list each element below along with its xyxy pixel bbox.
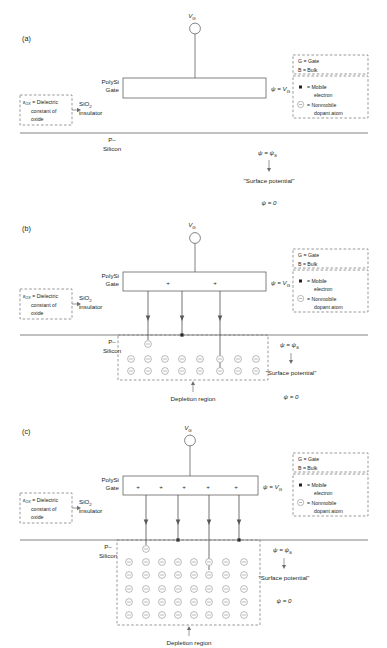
dielectric-constant-box-a: εOX = Dielectric constant of oxide [20, 95, 81, 125]
eps-ox-line3: oxide [31, 116, 44, 122]
legend-dopant-row1-b: = Nonmobile [307, 296, 336, 302]
insulator-label-c: insulator [79, 507, 102, 514]
panel-c-label: (c) [22, 427, 30, 436]
psi-eq-psis-b: ψ = ψS [280, 341, 299, 350]
sio2-label-c: SiO2 [79, 498, 92, 507]
insulator-label: insulator [79, 109, 102, 116]
panel-c: (c) VG PolySi Gate + + + + + ψ = VG SiO2… [20, 424, 368, 646]
legend-dopant-row2-c: dopant atom [314, 508, 343, 514]
terminal-circle-c [185, 435, 196, 446]
vg-label: VG [188, 12, 196, 21]
eps-ox-line2-c: constant of [31, 506, 57, 512]
gate-plus-c-1: + [136, 483, 140, 490]
panel-b: (b) VG PolySi Gate + + ψ = VG SiO2 insul… [20, 221, 368, 402]
psi-eq-psis-c: ψ = ψS [273, 546, 292, 555]
legend-gate-row: G = Gate [298, 58, 319, 64]
gate-label-c: Gate [106, 484, 120, 491]
legend-b: G = Gate B = Bulk = Mobile electron = No… [293, 249, 368, 312]
insulator-label-b: insulator [79, 303, 102, 310]
depletion-region-label-b: Depletion region [170, 395, 216, 402]
legend-a: G = Gate B = Bulk = Mobile electron = No… [293, 55, 368, 118]
psi-zero-a: ψ = 0 [262, 199, 278, 206]
vg-label-b: VG [188, 221, 196, 230]
psi-eq-vg-a: ψ = VG [271, 85, 291, 94]
surface-potential-arrow-a [267, 160, 271, 172]
eps-ox-line3-b: oxide [31, 310, 44, 316]
dopant-row-c-4 [126, 599, 248, 606]
panel-b-gate-terminal: VG [188, 221, 200, 272]
terminal-circle [190, 23, 201, 34]
legend-gate-row-b: G = Gate [298, 252, 319, 258]
surface-potential-c: "Surface potential" [259, 574, 310, 581]
gate-plus-c-5: + [234, 483, 238, 490]
legend-electron-icon-c [299, 484, 302, 487]
silicon-label-b: Silicon [103, 347, 122, 354]
dielectric-constant-box-c: εOX = Dielectric constant of oxide [20, 493, 81, 523]
dopant-row-c-5 [126, 612, 248, 619]
gate-label-b: Gate [106, 280, 120, 287]
legend-electron-icon [299, 86, 302, 89]
panel-a-label: (a) [22, 34, 31, 43]
panel-c-gate-terminal: VG [184, 424, 195, 476]
legend-gate-row-c: G = Gate [298, 456, 319, 462]
legend-dopant-row1-c: = Nonmobile [307, 500, 336, 506]
silicon-label-c: Silicon [99, 552, 118, 559]
panel-a-gate-terminal: VG [188, 12, 200, 78]
psi-eq-vg-c: ψ = VG [263, 483, 283, 492]
dopant-row-b-1 [128, 356, 260, 363]
sio2-label: SiO2 [79, 100, 92, 109]
gate-plus-c-4: + [206, 483, 210, 490]
legend-bulk-row: B = Bulk [298, 67, 318, 73]
dopant-row-c-1 [126, 559, 248, 566]
legend-electron-row1-c: = Mobile [307, 482, 327, 488]
psi-zero-c: ψ = 0 [277, 597, 293, 604]
p-minus-label: P– [108, 136, 116, 143]
silicon-label: Silicon [103, 145, 122, 152]
legend-c: G = Gate B = Bulk = Mobile electron = No… [293, 453, 368, 516]
psi-eq-psis-a: ψ = ψS [258, 149, 277, 158]
gate-plus-b-1: + [166, 279, 170, 286]
surface-potential-arrow-c [282, 558, 286, 569]
dopant-row-c-3 [126, 586, 248, 593]
surface-potential-b: "Surface potential" [266, 369, 317, 376]
subsurface-dopant-b [145, 341, 152, 348]
eps-ox-line2-b: constant of [31, 302, 57, 308]
dopant-row-c-2 [126, 572, 248, 579]
surface-potential-arrow-b [289, 353, 293, 364]
psi-eq-vg-b: ψ = VG [271, 279, 291, 288]
eps-ox-line2: constant of [31, 108, 57, 114]
legend-bulk-row-b: B = Bulk [298, 261, 318, 267]
sio2-label-b: SiO2 [79, 294, 92, 303]
depletion-region-label-c: Depletion region [166, 639, 212, 646]
legend-electron-row2: electron [314, 92, 333, 98]
subsurface-dopant-c [143, 546, 150, 553]
depletion-region-c: Depletion region [117, 540, 260, 646]
vg-label-c: VG [184, 424, 192, 433]
dopant-row-b-2 [128, 368, 260, 375]
panel-a: (a) VG PolySi Gate ψ = VG SiO2 insulator… [20, 12, 368, 206]
polysi-label-b: PolySi [101, 272, 119, 279]
eps-ox-line1: εOX = Dielectric [23, 99, 58, 106]
depletion-region-b: Depletion region [118, 335, 268, 402]
polysi-gate-box [123, 78, 266, 98]
legend-electron-row1: = Mobile [307, 84, 327, 90]
legend-bulk-row-c: B = Bulk [298, 465, 318, 471]
polysi-label-c: PolySi [101, 476, 119, 483]
legend-dopant-icon-c [298, 499, 304, 505]
legend-dopant-icon [298, 101, 304, 107]
p-minus-label-c: P– [104, 543, 112, 550]
gate-plus-c-2: + [159, 483, 163, 490]
p-minus-label-b: P– [108, 338, 116, 345]
dielectric-constant-box-b: εOX = Dielectric constant of oxide [20, 289, 81, 319]
terminal-circle-b [190, 233, 201, 244]
eps-ox-line1-c: εOX = Dielectric [23, 497, 58, 504]
polysi-gate-box-b [123, 272, 266, 291]
mos-capacitor-figure: (a) VG PolySi Gate ψ = VG SiO2 insulator… [0, 0, 387, 648]
legend-electron-row2-b: electron [314, 286, 333, 292]
legend-electron-row2-c: electron [314, 490, 333, 496]
legend-dopant-row1: = Nonmobile [307, 102, 336, 108]
eps-ox-line1-b: εOX = Dielectric [23, 293, 58, 300]
legend-dopant-row2: dopant atom [314, 110, 343, 116]
legend-electron-icon-b [299, 280, 302, 283]
polysi-label: PolySi [101, 78, 119, 85]
